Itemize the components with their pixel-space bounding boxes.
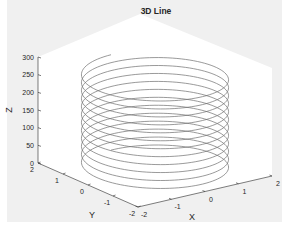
- x-tick-label: -1: [174, 203, 180, 210]
- z-tick-label: 200: [22, 89, 34, 96]
- chart-3d-line: 050100150200250300 Z -2-1012 Y -2-1012 X…: [0, 0, 287, 233]
- y-tick-label: 0: [80, 188, 84, 195]
- y-tick-label: -1: [104, 199, 110, 206]
- z-tick-label: 100: [22, 124, 34, 131]
- x-axis-label: X: [189, 212, 195, 222]
- z-tick-label: 300: [22, 54, 34, 61]
- x-tick-label: 1: [243, 188, 247, 195]
- y-tick-label: -2: [129, 210, 135, 217]
- chart-title: 3D Line: [141, 6, 172, 16]
- y-tick-label: 2: [30, 166, 34, 173]
- x-tick-label: 0: [209, 196, 213, 203]
- z-tick-label: 50: [26, 142, 34, 149]
- z-axis-label: Z: [4, 107, 14, 113]
- y-tick-label: 1: [55, 177, 59, 184]
- x-tick-label: 2: [276, 180, 280, 187]
- z-tick-label: 250: [22, 71, 34, 78]
- x-tick-label: -2: [141, 211, 147, 218]
- z-tick-label: 150: [22, 107, 34, 114]
- figure: 050100150200250300 Z -2-1012 Y -2-1012 X…: [0, 0, 287, 233]
- y-axis-label: Y: [89, 210, 95, 220]
